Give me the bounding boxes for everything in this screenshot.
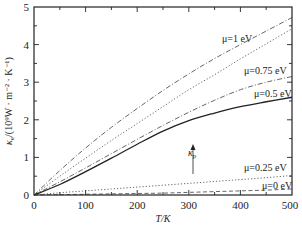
label-mu-075: μ=0.75 eV: [244, 65, 287, 76]
y-tick-3: 3: [24, 76, 30, 88]
label-mu-025: μ=0.25 eV: [244, 162, 287, 173]
curve-3: [34, 97, 292, 195]
y-axis-title: κe/(10⁹W · m⁻² · K⁻¹): [3, 57, 16, 145]
label-mu-05: μ=0.5 eV: [254, 88, 292, 99]
y-tick-0: 0: [24, 189, 30, 201]
label-mu-0: μ=0 eV: [262, 180, 293, 191]
label-mu-1: μ=1 eV: [222, 33, 253, 44]
label-kp-sub: p: [193, 152, 197, 160]
x-axis-title: T/K: [155, 213, 171, 224]
x-tick-500: 500: [282, 199, 299, 211]
y-tick-5: 5: [24, 1, 30, 13]
y-tick-labels: 0 1 2 3 4 5: [24, 1, 30, 201]
x-tick-100: 100: [77, 199, 94, 211]
y-tick-2: 2: [24, 114, 30, 126]
y-tick-1: 1: [24, 151, 30, 163]
y-axis-title-units: /(10⁹W · m⁻² · K⁻¹): [3, 57, 15, 137]
y-tick-4: 4: [24, 39, 30, 51]
x-tick-200: 200: [129, 199, 146, 211]
chart: 0 1 2 3 4 5 0 100 200 300 400 500 T/K κe…: [0, 0, 302, 232]
x-tick-labels: 0 100 200 300 400 500: [31, 199, 299, 211]
label-kp: κp: [188, 147, 197, 160]
x-tick-400: 400: [232, 199, 249, 211]
x-tick-0: 0: [31, 199, 37, 211]
x-tick-300: 300: [181, 199, 198, 211]
